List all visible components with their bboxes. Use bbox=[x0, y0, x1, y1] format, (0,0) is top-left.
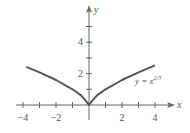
y-tick-label: 2 bbox=[78, 68, 83, 79]
x-axis-label: x bbox=[176, 99, 182, 110]
equation-label: y = x2/3 bbox=[134, 75, 161, 86]
chart: −4 −2 2 4 2 4 x y y = x2/3 bbox=[0, 0, 190, 133]
x-tick-label: −4 bbox=[18, 112, 29, 123]
y-axis-label: y bbox=[93, 4, 99, 15]
x-tick-label: 4 bbox=[153, 112, 158, 123]
x-tick-label: −2 bbox=[51, 112, 62, 123]
y-tick-label: 4 bbox=[78, 36, 83, 47]
x-tick-label: 2 bbox=[120, 112, 125, 123]
